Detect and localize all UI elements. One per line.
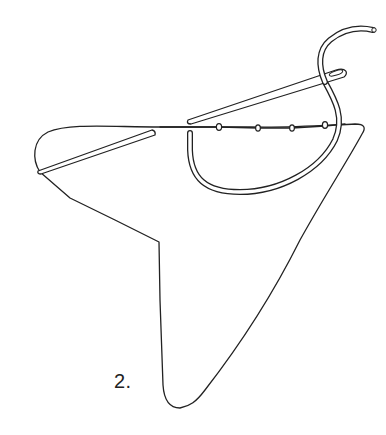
stitch-3: [290, 125, 295, 131]
seam-line: [160, 124, 345, 128]
illustration: 2.: [0, 0, 386, 435]
step-label: 2.: [114, 370, 132, 393]
left-needle: [38, 130, 155, 174]
sewing-diagram: [0, 0, 386, 435]
stitch-2: [256, 125, 261, 131]
stitch-4: [322, 122, 327, 129]
stitch-1: [216, 124, 221, 131]
thread-end: [372, 28, 376, 32]
